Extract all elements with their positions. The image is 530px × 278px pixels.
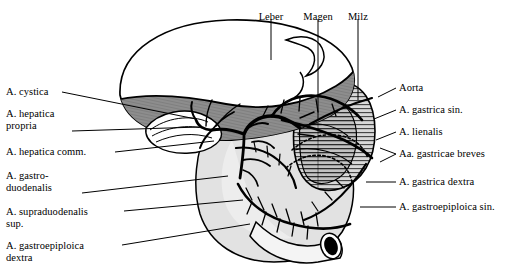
- label-a-gastrica-sin-line-1: A. gastrica sin.: [399, 104, 463, 116]
- label-aa-gastricae-breves: Aa. gastricae breves: [399, 148, 485, 160]
- label-a-gastroduodenalis-line-1: A. gastro-: [6, 170, 52, 182]
- label-a-cystica: A. cystica: [6, 86, 49, 98]
- leader-aa-gastricae-breves-b: [380, 154, 396, 162]
- label-a-hepatica-comm: A. hepatica comm.: [6, 146, 86, 158]
- label-a-lienalis-line-1: A. lienalis: [399, 126, 443, 138]
- label-a-supraduodenalis-sup: A. supraduodenalissup.: [6, 206, 88, 229]
- label-a-gastroepiploica-dextra-line-1: A. gastroepiploica: [6, 240, 84, 252]
- leader-aorta: [378, 88, 396, 97]
- label-a-gastroepiploica-sin: A. gastroepiploica sin.: [399, 201, 495, 213]
- label-a-lienalis: A. lienalis: [399, 126, 443, 138]
- leader-a-lienalis: [376, 132, 396, 140]
- label-a-hepatica-propria-line-1: A. hepatica: [6, 108, 54, 120]
- label-aa-gastricae-breves-line-1: Aa. gastricae breves: [399, 148, 485, 160]
- label-a-gastroduodenalis-line-2: duodenalis: [6, 182, 52, 194]
- label-a-supraduodenalis-sup-line-1: A. supraduodenalis: [6, 206, 88, 218]
- label-a-supraduodenalis-sup-line-2: sup.: [6, 218, 88, 230]
- label-a-gastroepiploica-dextra-line-2: dextra: [6, 252, 84, 264]
- label-milz: Milz: [318, 11, 398, 23]
- anatomy-figure: [0, 0, 530, 278]
- label-a-gastroepiploica-dextra: A. gastroepiploicadextra: [6, 240, 84, 263]
- label-a-gastroepiploica-sin-line-1: A. gastroepiploica sin.: [399, 201, 495, 213]
- label-aorta-line-1: Aorta: [399, 82, 423, 94]
- label-a-gastrica-sin: A. gastrica sin.: [399, 104, 463, 116]
- label-a-gastrica-dextra: A. gastrica dextra: [399, 176, 474, 188]
- label-a-hepatica-comm-line-1: A. hepatica comm.: [6, 146, 86, 158]
- leader-a-gastrica-sin: [374, 110, 396, 119]
- label-aorta: Aorta: [399, 82, 423, 94]
- leader-aa-gastricae-breves: [380, 148, 396, 154]
- label-a-gastrica-dextra-line-1: A. gastrica dextra: [399, 176, 474, 188]
- label-a-hepatica-propria: A. hepaticapropria: [6, 108, 54, 131]
- label-a-cystica-line-1: A. cystica: [6, 86, 49, 98]
- label-a-gastroduodenalis: A. gastro-duodenalis: [6, 170, 52, 193]
- label-a-hepatica-propria-line-2: propria: [6, 120, 54, 132]
